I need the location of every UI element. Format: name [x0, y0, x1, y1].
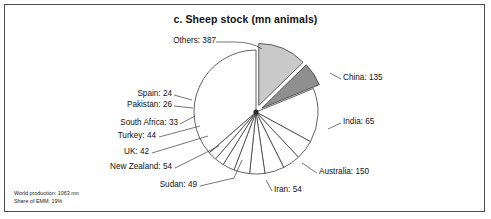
leader-line-others [216, 42, 262, 49]
footnote-share-of-emm: Share of EMM: 19% [14, 197, 79, 205]
pie-center-marker [253, 109, 258, 114]
pie-label-uk: UK: 42 [0, 148, 149, 156]
leader-line-iran [266, 180, 272, 191]
leader-line-spain [174, 95, 192, 100]
leader-line-pakistan [174, 106, 193, 108]
leader-line-india [328, 123, 341, 129]
pie-label-new-zealand: New Zealand: 54 [0, 163, 172, 171]
pie-label-spain: Spain: 24 [12, 90, 172, 98]
footnote: World production: 1063 mn Share of EMM: … [14, 189, 79, 206]
pie-label-iran: Iran: 54 [274, 186, 302, 194]
leader-line-china [330, 73, 341, 79]
figure-container: c. Sheep stock (mn animals) [0, 0, 491, 219]
leader-line-australia [302, 163, 317, 173]
pie-label-others: Others: 387 [56, 37, 216, 45]
pie-label-australia: Australia: 150 [319, 168, 369, 176]
leader-line-uk [152, 136, 208, 153]
pie-label-china: China: 135 [343, 74, 383, 82]
pie-label-india: India: 65 [343, 118, 374, 126]
pie-label-turkey: Turkey: 44 [0, 132, 156, 140]
pie-label-pakistan: Pakistan: 26 [12, 101, 172, 109]
pie-slices [194, 44, 319, 174]
pie-label-south-africa: South Africa: 33 [18, 119, 178, 127]
footnote-world-production: World production: 1063 mn [14, 189, 79, 197]
leader-line-south-africa [180, 116, 195, 124]
pie-label-sudan: Sudan: 49 [0, 181, 197, 189]
leader-line-turkey [159, 126, 200, 137]
leader-line-new-zealand [175, 146, 219, 168]
